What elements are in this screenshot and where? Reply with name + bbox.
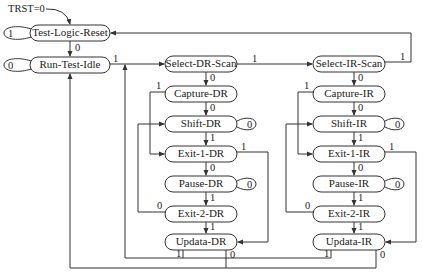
svg-text:Exit-1-DR: Exit-1-DR bbox=[178, 147, 225, 159]
svg-text:1: 1 bbox=[156, 80, 161, 91]
edge-e1dr-udr bbox=[237, 152, 268, 242]
svg-text:Run-Test-Idle: Run-Test-Idle bbox=[40, 58, 101, 70]
svg-text:Shift-DR: Shift-DR bbox=[181, 117, 222, 129]
svg-text:1: 1 bbox=[358, 192, 363, 203]
state-exit-1-dr: Exit-1-DR bbox=[165, 146, 237, 162]
tap-state-diagram: TRST=0 Test-Logic-Reset 1 0 Run-Test-Idl… bbox=[0, 0, 423, 278]
state-pause-dr: Pause-DR bbox=[165, 176, 237, 192]
svg-text:1: 1 bbox=[210, 192, 215, 203]
state-capture-dr: Capture-DR bbox=[165, 86, 237, 102]
edge-e2ir-shir bbox=[286, 124, 314, 212]
state-shift-ir: Shift-IR bbox=[313, 116, 385, 132]
state-pause-ir: Pause-IR bbox=[313, 176, 385, 192]
svg-text:1: 1 bbox=[324, 248, 329, 259]
state-test-logic-reset: Test-Logic-Reset bbox=[30, 25, 110, 41]
svg-text:Updata-DR: Updata-DR bbox=[176, 235, 227, 247]
svg-text:1: 1 bbox=[304, 80, 309, 91]
edge-uir-rti bbox=[226, 250, 376, 268]
svg-text:0: 0 bbox=[305, 200, 310, 211]
state-shift-dr: Shift-DR bbox=[165, 116, 237, 132]
svg-text:1: 1 bbox=[400, 51, 405, 62]
svg-text:0: 0 bbox=[358, 102, 363, 113]
state-select-dr-scan: Select-DR-Scan bbox=[165, 56, 237, 72]
svg-text:Select-DR-Scan: Select-DR-Scan bbox=[166, 57, 237, 69]
svg-text:1: 1 bbox=[210, 221, 215, 232]
svg-text:Exit-1-IR: Exit-1-IR bbox=[328, 147, 371, 159]
svg-text:Pause-IR: Pause-IR bbox=[329, 177, 370, 189]
state-exit-2-ir: Exit-2-IR bbox=[313, 206, 385, 222]
svg-text:0: 0 bbox=[395, 179, 400, 190]
svg-text:0: 0 bbox=[230, 249, 235, 260]
svg-text:0: 0 bbox=[247, 179, 252, 190]
svg-text:1: 1 bbox=[358, 221, 363, 232]
state-exit-2-dr: Exit-2-DR bbox=[165, 206, 237, 222]
svg-text:1: 1 bbox=[252, 53, 257, 64]
edge-e2dr-shdr bbox=[138, 124, 166, 212]
svg-text:0: 0 bbox=[210, 102, 215, 113]
svg-text:Select-IR-Scan: Select-IR-Scan bbox=[316, 57, 383, 69]
svg-text:Test-Logic-Reset: Test-Logic-Reset bbox=[32, 26, 108, 38]
edge-uir-sdr bbox=[183, 250, 331, 258]
svg-text:0: 0 bbox=[210, 72, 215, 83]
svg-text:0: 0 bbox=[358, 162, 363, 173]
svg-text:0: 0 bbox=[8, 60, 13, 71]
svg-text:1: 1 bbox=[389, 141, 394, 152]
edge-e1ir-uir bbox=[385, 152, 416, 242]
svg-text:0: 0 bbox=[157, 200, 162, 211]
state-run-test-idle: Run-Test-Idle bbox=[30, 57, 110, 73]
svg-text:Capture-IR: Capture-IR bbox=[324, 87, 374, 99]
svg-text:0: 0 bbox=[75, 42, 80, 53]
edge-cir-e1ir bbox=[298, 92, 314, 154]
svg-text:Exit-2-IR: Exit-2-IR bbox=[328, 207, 371, 219]
state-select-ir-scan: Select-IR-Scan bbox=[313, 56, 385, 72]
svg-text:0: 0 bbox=[210, 162, 215, 173]
svg-text:1: 1 bbox=[113, 53, 118, 64]
svg-text:Shift-IR: Shift-IR bbox=[331, 117, 368, 129]
state-exit-1-ir: Exit-1-IR bbox=[313, 146, 385, 162]
state-capture-ir: Capture-IR bbox=[313, 86, 385, 102]
edge-label: 1 bbox=[8, 28, 13, 39]
trst-label: TRST=0 bbox=[8, 3, 45, 14]
svg-text:1: 1 bbox=[176, 248, 181, 259]
svg-text:Exit-2-DR: Exit-2-DR bbox=[178, 207, 225, 219]
svg-text:1: 1 bbox=[358, 132, 363, 143]
svg-text:0: 0 bbox=[395, 119, 400, 130]
svg-text:0: 0 bbox=[358, 72, 363, 83]
svg-text:0: 0 bbox=[380, 249, 385, 260]
svg-text:Pause-DR: Pause-DR bbox=[179, 177, 224, 189]
svg-text:1: 1 bbox=[210, 132, 215, 143]
reset-arrow bbox=[46, 9, 70, 24]
svg-text:Capture-DR: Capture-DR bbox=[174, 87, 228, 99]
svg-text:1: 1 bbox=[241, 141, 246, 152]
edge-cdr-e1dr bbox=[150, 92, 166, 154]
svg-text:0: 0 bbox=[247, 119, 252, 130]
svg-text:Updata-IR: Updata-IR bbox=[326, 235, 373, 247]
